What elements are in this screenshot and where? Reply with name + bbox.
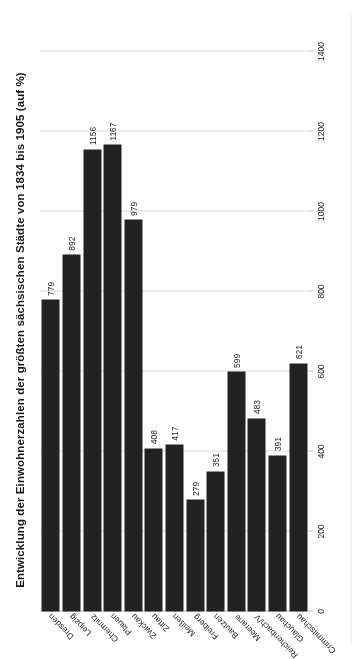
category-label-chemnitz: Chemnitz bbox=[87, 611, 119, 643]
bar-value-label: 391 bbox=[268, 436, 286, 450]
bar-row: 417 bbox=[165, 51, 183, 611]
bar-row: 621 bbox=[289, 51, 307, 611]
bar-leipzig bbox=[62, 254, 80, 611]
bar-meerane bbox=[227, 371, 245, 611]
bar-value-label: 892 bbox=[62, 236, 80, 250]
category-label-zittau: Zittau bbox=[149, 611, 171, 633]
category-label-zwickau: Zwickau bbox=[128, 611, 157, 640]
category-label-crimmitschau: Crimmitschau bbox=[293, 611, 337, 655]
tick-mark bbox=[308, 370, 313, 371]
category-label-dresden: Dresden bbox=[46, 611, 76, 641]
bar-row: 279 bbox=[186, 51, 204, 611]
footer-rule bbox=[350, 14, 351, 645]
tick-mark bbox=[308, 50, 313, 51]
tick-mark bbox=[308, 450, 313, 451]
bar-series: 7798921156116797940841727935159948339162… bbox=[40, 51, 308, 611]
bar-row: 599 bbox=[227, 51, 245, 611]
bar-mei-en bbox=[165, 444, 183, 611]
tick-mark bbox=[308, 210, 313, 211]
bar-row: 1156 bbox=[83, 51, 101, 611]
tick-label: 800 bbox=[315, 284, 325, 298]
bar-value-label: 1156 bbox=[83, 126, 101, 144]
bar-value-label: 417 bbox=[165, 426, 183, 440]
bar-value-label: 1167 bbox=[103, 122, 121, 140]
bar-value-label: 408 bbox=[144, 430, 162, 444]
tick-mark bbox=[308, 290, 313, 291]
bar-value-label: 599 bbox=[227, 353, 245, 367]
bar-plauen bbox=[103, 144, 121, 611]
bar-row: 391 bbox=[268, 51, 286, 611]
bar-value-label: 779 bbox=[41, 281, 59, 295]
tick-label: 1400 bbox=[315, 42, 325, 61]
bar-value-label: 279 bbox=[186, 481, 204, 495]
bar-bautzen bbox=[206, 471, 224, 611]
category-label-mei-en: Meißen bbox=[169, 611, 196, 638]
tick-label: 1200 bbox=[315, 122, 325, 141]
bar-freiberg bbox=[186, 499, 204, 611]
bar-value-label: 979 bbox=[124, 201, 142, 215]
bar-zittau bbox=[144, 448, 162, 611]
category-label-freiberg: Freiberg bbox=[190, 611, 219, 640]
tick-mark bbox=[308, 610, 313, 611]
category-label-bautzen: Bautzen bbox=[211, 611, 240, 640]
bar-reichenbach-v bbox=[247, 418, 265, 611]
plot-area: 7798921156116797940841727935159948339162… bbox=[40, 51, 308, 611]
bar-row: 892 bbox=[62, 51, 80, 611]
bar-value-label: 483 bbox=[247, 400, 265, 414]
bar-row: 408 bbox=[144, 51, 162, 611]
category-label-leipzig: Leipzig bbox=[66, 611, 92, 637]
bar-zwickau bbox=[124, 219, 142, 611]
bar-row: 779 bbox=[41, 51, 59, 611]
tick-mark bbox=[308, 530, 313, 531]
bar-row: 1167 bbox=[103, 51, 121, 611]
bar-chart-figure: Entwicklung der Einwohnerzahlen der größ… bbox=[0, 0, 359, 659]
category-label-meerane: Meerane bbox=[231, 611, 262, 642]
tick-label: 400 bbox=[315, 444, 325, 458]
chart-title: Entwicklung der Einwohnerzahlen der größ… bbox=[0, 0, 25, 659]
bar-dresden bbox=[41, 299, 59, 611]
tick-label: 600 bbox=[315, 364, 325, 378]
category-label-reichenbach-v: Reichenbach/V bbox=[252, 611, 300, 659]
tick-mark bbox=[308, 130, 313, 131]
category-label-plauen: Plauen bbox=[108, 611, 134, 637]
bar-value-label: 351 bbox=[206, 452, 224, 466]
category-label-glauchau: Glauchau bbox=[273, 611, 306, 644]
bar-row: 483 bbox=[247, 51, 265, 611]
bar-row: 351 bbox=[206, 51, 224, 611]
bar-glauchau bbox=[268, 455, 286, 611]
tick-label: 0 bbox=[315, 609, 325, 614]
tick-label: 200 bbox=[315, 524, 325, 538]
rotated-figure-wrapper: Entwicklung der Einwohnerzahlen der größ… bbox=[0, 0, 359, 659]
bar-chemnitz bbox=[83, 149, 101, 611]
bar-crimmitschau bbox=[289, 363, 307, 611]
value-axis: 0200400600800100012001400 bbox=[308, 51, 348, 611]
bar-row: 979 bbox=[124, 51, 142, 611]
bar-value-label: 621 bbox=[289, 344, 307, 358]
tick-label: 1000 bbox=[315, 202, 325, 221]
